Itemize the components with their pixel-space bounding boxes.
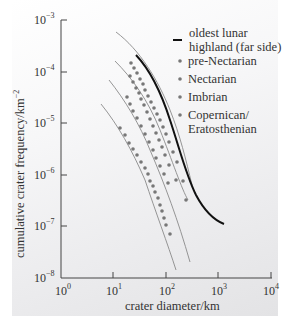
legend-item-copernican-line1: Copernican/ bbox=[188, 108, 250, 122]
x-tick-1e4: 104 bbox=[263, 282, 279, 298]
imbrian-points bbox=[125, 95, 170, 185]
y-tick-labels: 10−3 10−4 10−5 10−6 10−7 10−8 bbox=[34, 11, 55, 285]
x-tick-1e1: 101 bbox=[106, 282, 122, 298]
y-tick-1e-8: 10−8 bbox=[34, 269, 55, 285]
x-tick-1e2: 102 bbox=[159, 282, 175, 298]
x-tick-labels: 100 101 102 103 104 bbox=[55, 282, 279, 298]
legend-item-oldest-highland-line2: highland (far side) bbox=[189, 40, 281, 54]
legend-dot-marker bbox=[178, 113, 182, 117]
y-tick-1e-7: 10−7 bbox=[34, 217, 55, 233]
y-tick-1e-3: 10−3 bbox=[34, 11, 55, 27]
nectarian-points bbox=[128, 74, 188, 202]
y-tick-1e-6: 10−6 bbox=[34, 166, 55, 182]
legend: oldest lunar highland (far side) pre-Nec… bbox=[173, 26, 281, 136]
legend-dot-marker bbox=[178, 95, 182, 99]
y-axis-title: cumulative crater frequency/km−2 bbox=[12, 90, 27, 258]
y-tick-1e-4: 10−4 bbox=[34, 63, 55, 79]
legend-item-oldest-highland-line1: oldest lunar bbox=[189, 26, 249, 40]
legend-item-copernican-line2: Eratosthenian bbox=[188, 122, 257, 136]
x-axis-title: crater diameter/km bbox=[125, 299, 220, 313]
x-tick-1e0: 100 bbox=[55, 282, 71, 298]
legend-item-nectarian: Nectarian bbox=[188, 72, 237, 86]
crater-frequency-chart: 10−3 10−4 10−5 10−6 10−7 10−8 100 101 10… bbox=[0, 0, 295, 327]
legend-item-imbrian: Imbrian bbox=[188, 90, 228, 104]
y-tick-1e-5: 10−5 bbox=[34, 114, 55, 130]
legend-dot-marker bbox=[178, 77, 182, 81]
legend-item-pre-nectarian: pre-Nectarian bbox=[188, 54, 257, 68]
x-tick-1e3: 103 bbox=[211, 282, 227, 298]
legend-dot-marker bbox=[178, 59, 182, 63]
